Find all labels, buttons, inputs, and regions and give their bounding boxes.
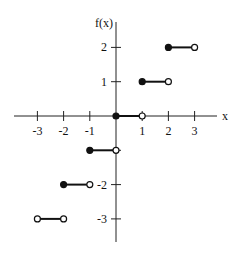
x-tick-label: 1 [139, 124, 145, 138]
open-endpoint [87, 182, 93, 188]
x-tick-label: -2 [59, 124, 69, 138]
step-function-chart: -3-2-112321-2-3 x f(x) [0, 0, 239, 255]
ticks: -3-2-112321-2-3 [32, 40, 197, 226]
closed-endpoint [113, 113, 119, 119]
closed-endpoint [61, 182, 67, 188]
closed-endpoint [139, 79, 145, 85]
x-axis-label: x [222, 109, 228, 123]
x-tick-label: 3 [192, 124, 198, 138]
y-axis-label: f(x) [95, 16, 113, 30]
x-tick-label: -1 [85, 124, 95, 138]
axes [14, 22, 217, 242]
x-tick-label: 2 [165, 124, 171, 138]
open-endpoint [34, 216, 40, 222]
open-endpoint [61, 216, 67, 222]
closed-endpoint [165, 44, 171, 50]
y-tick-label: 2 [101, 40, 107, 54]
open-endpoint [113, 147, 119, 153]
y-tick-label: 1 [101, 75, 107, 89]
open-endpoint [192, 44, 198, 50]
open-endpoint [165, 79, 171, 85]
closed-endpoint [87, 147, 93, 153]
x-tick-label: -3 [32, 124, 42, 138]
y-tick-label: -3 [97, 212, 107, 226]
y-tick-label: -2 [97, 178, 107, 192]
open-endpoint [139, 113, 145, 119]
